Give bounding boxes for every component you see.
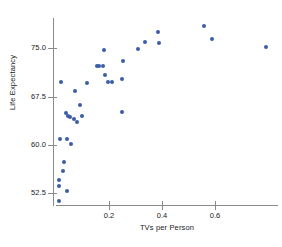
x-tick-label: 0.4 bbox=[142, 211, 182, 220]
data-point bbox=[75, 120, 79, 124]
data-point bbox=[143, 40, 147, 44]
data-point bbox=[58, 137, 62, 141]
y-tick-label: 60.0 bbox=[0, 140, 46, 149]
x-tick-label: 0.6 bbox=[195, 211, 235, 220]
data-point bbox=[157, 41, 161, 45]
y-tick-label: 52.5 bbox=[0, 188, 46, 197]
data-point bbox=[57, 199, 61, 203]
data-point bbox=[136, 47, 140, 51]
data-point bbox=[69, 142, 73, 146]
data-point bbox=[103, 73, 107, 77]
data-point bbox=[202, 24, 206, 28]
data-point bbox=[62, 160, 66, 164]
x-axis-title: TVs per Person bbox=[0, 223, 282, 232]
data-point bbox=[61, 169, 65, 173]
data-point bbox=[57, 178, 61, 182]
data-point bbox=[120, 77, 124, 81]
data-point bbox=[57, 184, 61, 188]
data-point bbox=[101, 64, 105, 68]
data-point bbox=[65, 137, 69, 141]
data-point bbox=[85, 81, 89, 85]
data-point bbox=[102, 48, 106, 52]
data-point bbox=[73, 89, 77, 93]
data-point bbox=[59, 80, 63, 84]
data-point bbox=[120, 110, 124, 114]
data-point bbox=[264, 45, 268, 49]
y-axis-line bbox=[53, 18, 54, 206]
data-point bbox=[78, 103, 82, 107]
plot-area bbox=[56, 18, 278, 205]
data-point bbox=[210, 37, 214, 41]
data-point bbox=[156, 30, 160, 34]
data-point bbox=[80, 114, 84, 118]
data-point bbox=[121, 59, 125, 63]
data-point bbox=[65, 189, 69, 193]
x-tick-label: 0.2 bbox=[89, 211, 129, 220]
x-axis-line bbox=[56, 205, 278, 206]
data-point bbox=[110, 80, 114, 84]
y-axis-title: Life Expectancy bbox=[8, 28, 17, 138]
scatter-plot-figure: 52.560.067.575.0 0.20.40.6 Life Expectan… bbox=[0, 0, 282, 247]
